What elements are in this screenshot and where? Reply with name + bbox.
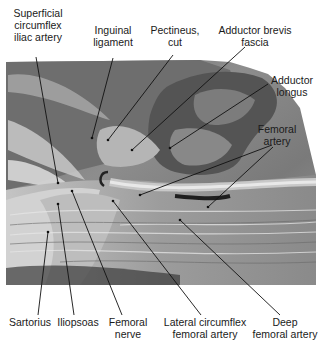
label-adductor-brevis-fascia: Adductor brevis fascia	[210, 24, 300, 48]
label-deep-femoral-artery: Deep femoral artery	[250, 316, 320, 340]
label-femoral-nerve: Femoral nerve	[108, 316, 148, 340]
label-sartorius: Sartorius	[2, 316, 58, 328]
anatomy-figure: Superficial circumflex iliac artery Ingu…	[0, 0, 321, 341]
label-inguinal-ligament: Inguinal ligament	[88, 24, 138, 48]
label-adductor-longus: Adductor longus	[266, 74, 318, 98]
label-iliopsoas: Iliopsoas	[56, 316, 100, 328]
dissection-photo	[0, 0, 321, 341]
label-femoral-artery: Femoral artery	[252, 123, 302, 147]
label-pectineus-cut: Pectineus, cut	[145, 24, 205, 48]
label-lateral-circumflex-femoral-artery: Lateral circumflex femoral artery	[160, 316, 250, 340]
label-superficial-circumflex-iliac-artery: Superficial circumflex iliac artery	[8, 7, 68, 43]
